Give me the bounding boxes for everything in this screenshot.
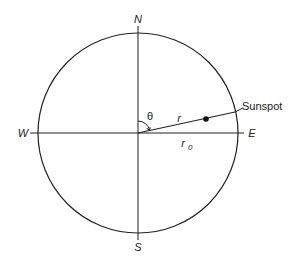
theta-label: θ [147, 110, 153, 122]
r0-label: r 0 [181, 137, 193, 152]
sunspot-dot [203, 116, 209, 122]
r-label: r [177, 112, 182, 124]
south-label: S [134, 241, 142, 253]
west-label: W [18, 127, 30, 139]
solar-disk-diagram: N S W E θ r r 0 Sunspot [0, 0, 300, 265]
r0-base: r [181, 137, 186, 149]
sunspot-label: Sunspot [242, 100, 282, 112]
r0-subscript: 0 [188, 143, 193, 152]
east-label: E [248, 127, 256, 139]
north-label: N [134, 13, 142, 25]
